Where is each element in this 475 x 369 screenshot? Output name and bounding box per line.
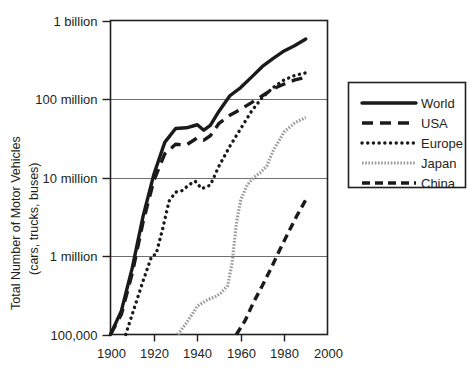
y-tick-label: 1 million bbox=[50, 249, 98, 264]
y-tick-label: 10 million bbox=[43, 171, 98, 186]
legend-label-europe: Europe bbox=[421, 136, 463, 151]
motor-vehicles-log-line-chart: Total Number of Motor Vehicles (cars, tr… bbox=[0, 0, 475, 369]
legend-label-japan: Japan bbox=[421, 156, 456, 171]
legend-label-china: China bbox=[421, 176, 456, 191]
legend-label-usa: USA bbox=[421, 116, 448, 131]
x-tick-label: 2000 bbox=[314, 346, 343, 361]
x-tick-label: 1960 bbox=[227, 346, 256, 361]
y-tick-label: 100,000 bbox=[51, 328, 98, 343]
y-tick-label: 100 million bbox=[35, 92, 97, 107]
y-tick-label: 1 billion bbox=[53, 14, 97, 29]
y-axis-title-line2: (cars, trucks, buses) bbox=[27, 162, 41, 275]
x-tick-label: 1920 bbox=[140, 346, 169, 361]
legend: WorldUSAEuropeJapanChina bbox=[349, 83, 466, 192]
x-tick-label: 1980 bbox=[270, 346, 299, 361]
x-tick-label: 1900 bbox=[97, 346, 126, 361]
y-axis-title-line1: Total Number of Motor Vehicles bbox=[9, 136, 23, 310]
chart-figure: Total Number of Motor Vehicles (cars, tr… bbox=[0, 0, 475, 369]
legend-label-world: World bbox=[421, 96, 455, 111]
x-tick-label: 1940 bbox=[183, 346, 212, 361]
